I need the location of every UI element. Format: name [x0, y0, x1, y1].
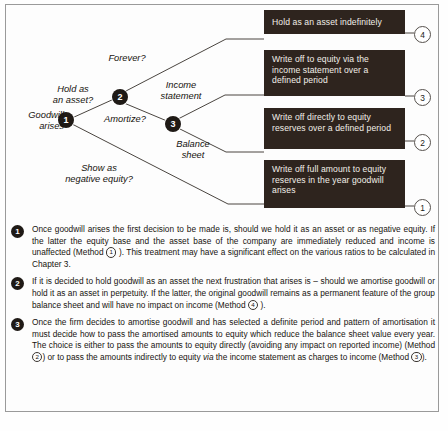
note-item: 1Once goodwill arises the first decision…: [11, 224, 435, 270]
note-text-run: ).: [258, 300, 265, 310]
outcome-box-3-text: Write off to equity via the income state…: [272, 54, 369, 85]
label-goodwill-arises: Goodwill arises: [6, 110, 64, 131]
outcome-box-2-text: Write off directly to equity reserves ov…: [272, 112, 391, 133]
outcome-number-4: 4: [414, 26, 431, 43]
outcome-box-1-text: Write off full amount to equity reserves…: [272, 164, 386, 195]
outcome-box-1: Write off full amount to equity reserves…: [264, 160, 405, 208]
label-hold-as-an-asset: Hold as an asset?: [42, 84, 104, 105]
note-item: 3Once the firm decides to amortise goodw…: [11, 317, 435, 363]
note-text-run: the income statement as charges to incom…: [214, 352, 412, 362]
note-bullet-1: 1: [11, 225, 24, 238]
outcome-number-2: 2: [414, 134, 431, 151]
note-bullet-2: 2: [11, 277, 24, 290]
notes-list: 1Once goodwill arises the first decision…: [11, 224, 435, 370]
decision-node-3: 3: [165, 116, 181, 132]
decision-tree-diagram: Hold as an asset indefinitely Write off …: [0, 0, 448, 218]
note-text: If it is decided to hold goodwill as an …: [32, 276, 435, 311]
outcome-box-4: Hold as an asset indefinitely: [264, 10, 405, 34]
note-text: Once goodwill arises the first decision …: [32, 224, 435, 270]
method-number-badge: 2: [32, 352, 42, 362]
method-number-badge: 1: [106, 247, 116, 257]
method-number-badge: 4: [248, 300, 258, 310]
note-text-run: ).: [422, 352, 427, 362]
method-number-badge: 3: [411, 352, 421, 362]
figure-page: Hold as an asset indefinitely Write off …: [0, 0, 448, 431]
note-item: 2If it is decided to hold goodwill as an…: [11, 276, 435, 311]
outcome-number-1: 1: [414, 199, 431, 216]
note-text-run: Once the firm decides to amortise goodwi…: [32, 317, 435, 350]
outcome-box-3: Write off to equity via the income state…: [264, 50, 405, 96]
outcome-number-3: 3: [414, 89, 431, 106]
outcome-box-2: Write off directly to equity reserves ov…: [264, 108, 405, 149]
label-forever: Forever?: [96, 53, 158, 64]
emphasis-text: via: [203, 352, 214, 362]
outcome-box-4-text: Hold as an asset indefinitely: [272, 17, 382, 28]
decision-node-2: 2: [112, 89, 128, 105]
label-show-as-negative-equity: Show as negative equity?: [47, 163, 151, 184]
note-text: Once the firm decides to amortise goodwi…: [32, 317, 435, 363]
note-bullet-3: 3: [11, 318, 24, 331]
note-text-run: ) or to pass the amounts indirectly to e…: [42, 352, 203, 362]
label-income-statement: Income statement: [150, 80, 212, 101]
label-amortize: Amortize?: [92, 114, 158, 125]
note-text-run: If it is decided to hold goodwill as an …: [32, 276, 435, 309]
label-balance-sheet: Balance sheet: [163, 139, 223, 160]
